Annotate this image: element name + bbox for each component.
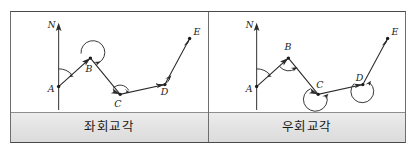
figure-root: N [0,0,416,151]
north-axis-right [253,23,259,110]
vertex-dot-c [118,93,121,96]
north-label-right: N [244,20,253,30]
vertex-label-e: E [390,26,398,37]
left-traverse-svg: N [11,12,208,112]
right-traverse-svg: N [209,12,406,112]
vertex-label-a: A [244,83,252,94]
vertex-dot-a [254,85,257,88]
vertex-dot-e [188,37,191,40]
angle-arc-d-arrowhead-icon [165,75,171,80]
angle-arc-d-arrowhead-icon [365,81,371,86]
vertex-dot-b [89,56,92,59]
north-label-left: N [47,20,56,30]
caption-cell-left: 좌회교각 [11,112,208,142]
diagram-right-deflection: N [209,12,406,112]
vertex-dot-e [385,37,388,40]
diagram-left-deflection: N [11,12,208,112]
vertex-dot-b [286,56,289,59]
vertex-label-b: B [84,63,92,74]
caption-cell-right: 우회교각 [209,112,406,142]
panel-left-deflection: N [11,12,209,142]
vertex-label-e: E [193,26,201,37]
vertex-label-a: A [47,83,55,94]
caption-left-deflection: 좌회교각 [84,121,134,134]
vertex-dot-c [316,93,319,96]
vertex-label-d: D [354,72,363,83]
north-axis-left [56,23,62,110]
panel-right-deflection: N [209,12,406,142]
angle-arc-a-left [59,69,74,77]
angle-arc-b-right [279,67,297,72]
caption-right-deflection: 우회교각 [282,121,332,134]
vertex-label-b: B [283,41,291,52]
angle-arc-c-arrowhead-icon [125,89,130,93]
figure-table: N [10,11,406,143]
vertex-label-c: C [316,80,323,91]
vertex-dot-d [361,83,364,86]
angle-arc-a-right [256,69,271,77]
vertex-dot-a [57,85,60,88]
vertex-label-d: D [160,86,169,97]
vertex-label-c: C [114,98,121,109]
